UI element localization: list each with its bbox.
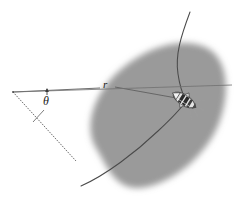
angle-label: θ [43,95,49,107]
gray-elliptical-body [91,43,226,188]
angle-vertex [12,91,14,93]
diagram-canvas [0,0,237,214]
orbital-geometry-diagram: r θ [0,0,237,214]
radius-label: r [103,79,107,90]
